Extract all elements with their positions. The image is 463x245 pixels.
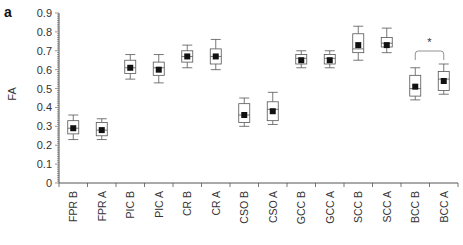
x-tick-label: BCC A (438, 191, 450, 223)
y-tick-label: 0.4 (37, 101, 52, 113)
y-tick-label: 0.5 (37, 83, 52, 95)
boxes (68, 26, 450, 139)
box-cr-a (210, 39, 221, 69)
mean-marker (270, 108, 276, 114)
x-tick-label: PIC A (153, 191, 165, 218)
x-tick-label: CR A (210, 191, 222, 216)
mean-marker (213, 53, 219, 59)
x-tick-label: GCC B (295, 191, 307, 224)
y-tick-label: 0.9 (37, 7, 52, 19)
y-tick-label: 0 (46, 177, 52, 189)
y-tick-label: 0.7 (37, 45, 52, 57)
box-cso-b (239, 98, 250, 126)
mean-marker (241, 112, 247, 118)
mean-marker (70, 125, 76, 131)
mean-marker (184, 53, 190, 59)
mean-marker (441, 78, 447, 84)
mean-marker (127, 65, 133, 71)
x-tick-label: GCC A (324, 191, 336, 224)
box-pic-a (153, 55, 164, 83)
y-tick-label: 0.8 (37, 26, 52, 38)
x-tick-label: BCC B (409, 191, 421, 223)
mean-marker (384, 42, 390, 48)
box-pic-b (125, 55, 136, 80)
mean-marker (156, 67, 162, 73)
box-fpr-b (68, 115, 79, 140)
x-tick-label: CR B (181, 191, 193, 216)
box-fpr-a (96, 119, 107, 140)
annotations: * (415, 36, 444, 60)
y-tick-label: 0.1 (37, 158, 52, 170)
box-gcc-b (296, 51, 307, 68)
x-tick-label: SCC B (352, 191, 364, 223)
box-bcc-a (438, 64, 449, 94)
mean-marker (99, 127, 105, 133)
y-tick-label: 0.6 (37, 64, 52, 76)
box-cso-a (267, 92, 278, 124)
x-tick-label: CSO A (267, 191, 279, 223)
mean-marker (412, 84, 418, 90)
y-tick-label: 0.3 (37, 120, 52, 132)
box-scc-a (381, 28, 392, 53)
box-plot-chart: 00.10.20.30.40.50.60.70.80.9FPR BFPR API… (0, 0, 463, 245)
x-tick-label: SCC A (381, 191, 393, 223)
significance-star: * (427, 36, 432, 48)
x-tick-label: PIC B (124, 191, 136, 218)
x-tick-label: CSO B (238, 191, 250, 224)
mean-marker (298, 57, 304, 63)
y-tick-label: 0.2 (37, 139, 52, 151)
significance-bracket (415, 51, 444, 60)
box-cr-b (182, 45, 193, 68)
mean-marker (355, 42, 361, 48)
box-gcc-a (324, 51, 335, 68)
box-bcc-b (410, 68, 421, 100)
mean-marker (327, 57, 333, 63)
x-tick-label: FPR B (67, 191, 79, 222)
x-tick-label: FPR A (96, 191, 108, 221)
box-scc-b (353, 26, 364, 60)
